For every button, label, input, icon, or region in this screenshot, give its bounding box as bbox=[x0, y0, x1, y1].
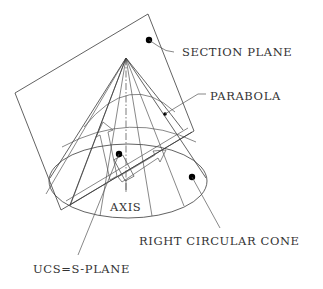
parabola-label: PARABOLA bbox=[210, 89, 281, 103]
diagram-canvas: SECTION PLANE PARABOLA AXIS RIGHT CIRCUL… bbox=[0, 0, 323, 289]
section-plane-label: SECTION PLANE bbox=[182, 45, 292, 59]
section-plane-leader bbox=[149, 40, 174, 52]
parabola-leader bbox=[165, 94, 206, 114]
ucs-label: UCS=S-PLANE bbox=[33, 262, 130, 276]
parabola-chord bbox=[70, 132, 192, 205]
cone-leader bbox=[192, 177, 220, 228]
parabola-chord-2 bbox=[66, 128, 188, 201]
ucs-icon bbox=[96, 122, 166, 182]
section-plane bbox=[15, 14, 194, 210]
parabola-curve bbox=[70, 58, 183, 205]
axis-label: AXIS bbox=[109, 200, 141, 214]
cone-label: RIGHT CIRCULAR CONE bbox=[139, 234, 300, 248]
